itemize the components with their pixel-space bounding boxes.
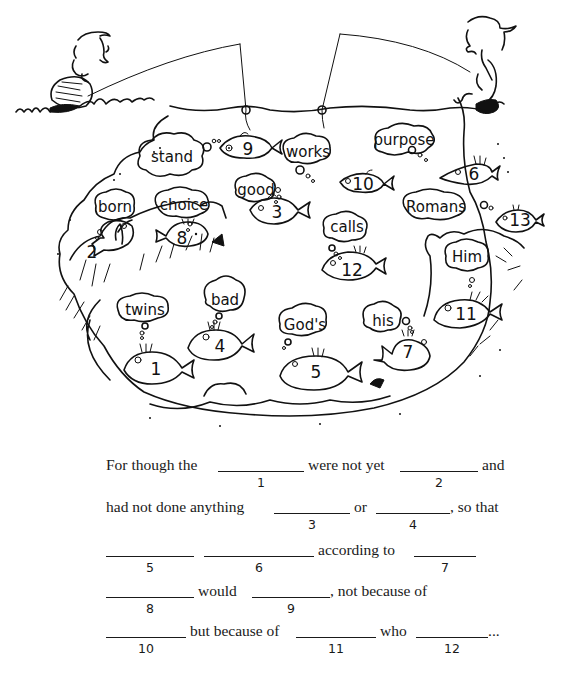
fish-number: 8 <box>177 228 188 248</box>
blank-2[interactable] <box>400 455 478 472</box>
fish-number: 12 <box>341 260 363 280</box>
bubble-gods: God's <box>279 303 326 349</box>
fish-7: 7 <box>374 330 430 370</box>
fish-number: 7 <box>403 342 414 362</box>
bubble-word: his <box>372 312 394 330</box>
blank-8[interactable] <box>106 581 194 598</box>
bubble-him: Him <box>445 239 488 288</box>
bubble-word: born <box>98 198 132 216</box>
blank-number: 10 <box>106 641 186 657</box>
fish-13: 13 <box>496 205 544 232</box>
blank-number: 9 <box>252 601 330 617</box>
puzzle-text: were not yet <box>308 455 385 475</box>
fish-11: 11 <box>434 292 502 328</box>
puzzle-text: For though the <box>106 455 197 475</box>
fish-number: 5 <box>311 362 322 382</box>
blank-number: 11 <box>296 641 376 657</box>
puzzle-text: according to <box>318 540 395 560</box>
water-surface <box>170 106 490 112</box>
fish-10: 10 <box>340 170 394 194</box>
blank-number: 7 <box>414 560 476 576</box>
fish-number: 11 <box>455 304 477 324</box>
puzzle-text: , so that <box>450 497 499 517</box>
fish-2: 2 <box>87 221 134 262</box>
puzzle-line-2: had not done anything 3 or 4 , so that <box>0 497 572 537</box>
fish-number: 6 <box>469 164 480 184</box>
blank-6[interactable] <box>204 540 314 557</box>
bubble-word: Him <box>452 248 482 266</box>
fish-number: 1 <box>151 359 162 379</box>
fish-9: 9 <box>220 132 282 159</box>
pebble-dots <box>57 143 509 427</box>
fish-number: 10 <box>352 174 374 194</box>
fish-8: 8 <box>156 219 208 248</box>
girl-fisher-icon <box>340 17 516 114</box>
puzzle-line-3: 5 6 according to 7 <box>0 540 572 580</box>
bubble-good: good <box>235 173 281 203</box>
blank-4[interactable] <box>376 497 450 514</box>
fish-number: 2 <box>87 242 98 262</box>
bubble-word: God's <box>284 316 326 334</box>
puzzle-text: and <box>482 455 504 475</box>
bubble-word: works <box>286 143 330 161</box>
boy-fisher-icon <box>16 32 240 112</box>
bubble-bad: bad <box>204 276 245 329</box>
bubble-purpose: purpose <box>374 123 435 161</box>
fishing-line-left <box>240 44 250 130</box>
blank-number: 2 <box>400 475 478 491</box>
fish-number: 4 <box>215 336 226 356</box>
fish-1: 1 <box>124 344 194 384</box>
puzzle-text: had not done anything <box>106 497 244 517</box>
blank-12[interactable] <box>416 621 488 638</box>
blank-3[interactable] <box>274 497 350 514</box>
blank-number: 5 <box>106 560 194 576</box>
blank-number: 6 <box>204 560 314 576</box>
fish-number: 13 <box>509 210 531 230</box>
puzzle-text: or <box>354 497 367 517</box>
puzzle-line-1: For though the 1 were not yet 2 and <box>0 455 572 495</box>
puzzle-line-4: 8 would 9 , not because of <box>0 581 572 621</box>
fishing-pond-illustration: stand works purpose born choice good cal… <box>0 0 572 440</box>
bubble-word: bad <box>211 291 239 309</box>
blank-7[interactable] <box>414 540 476 557</box>
blank-10[interactable] <box>106 621 186 638</box>
bubble-word: stand <box>151 148 193 166</box>
puzzle-line-5: 10 but because of 11 who 12 ... <box>0 621 572 661</box>
blank-number: 1 <box>218 475 304 491</box>
blank-number: 3 <box>274 517 350 533</box>
bubble-word: choice <box>160 196 209 214</box>
blank-1[interactable] <box>218 455 304 472</box>
bubble-stand: stand <box>138 133 221 176</box>
puzzle-text: , not because of <box>330 581 427 601</box>
puzzle-text: but because of <box>190 621 280 641</box>
bubble-word: purpose <box>374 131 435 149</box>
bubble-word: Romans <box>406 198 466 216</box>
blank-number: 12 <box>416 641 488 657</box>
blank-number: 8 <box>106 601 194 617</box>
fish-4: 4 <box>188 322 254 360</box>
puzzle-text: who <box>380 621 407 641</box>
blank-number: 4 <box>376 517 450 533</box>
bubble-twins: twins <box>117 293 168 340</box>
fish-5: 5 <box>280 348 362 390</box>
bubble-works: works <box>283 133 330 182</box>
bubble-his: his <box>363 301 413 333</box>
fish-6: 6 <box>440 156 500 184</box>
blank-11[interactable] <box>296 621 376 638</box>
fish-number: 9 <box>243 139 254 159</box>
blank-9[interactable] <box>252 581 330 598</box>
blank-5[interactable] <box>106 540 194 557</box>
puzzle-text: would <box>198 581 237 601</box>
bubble-word: twins <box>125 301 165 319</box>
fish-number: 3 <box>272 202 283 222</box>
puzzle-text: ... <box>488 621 500 641</box>
bubble-word: calls <box>330 218 364 236</box>
